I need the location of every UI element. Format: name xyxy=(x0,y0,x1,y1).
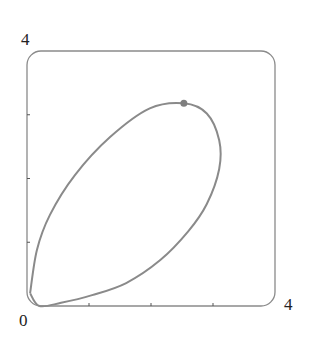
origin-label: 0 xyxy=(19,312,28,329)
x-max-label: 4 xyxy=(284,296,293,313)
chart-canvas xyxy=(0,0,310,338)
axis-ticks xyxy=(27,115,213,306)
y-max-label: 4 xyxy=(21,31,30,48)
data-point-marker xyxy=(180,100,187,107)
data-curve xyxy=(30,103,221,307)
